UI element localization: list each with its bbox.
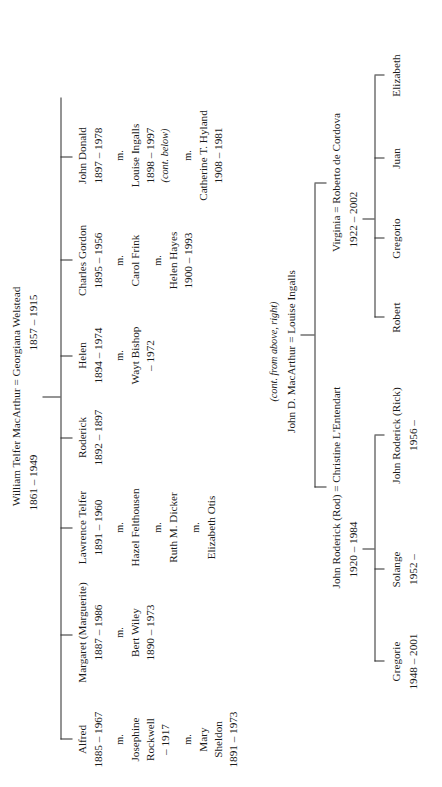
child-1-marriage-0-mark: m. [112, 589, 125, 675]
child-5-marriage-0-mark: m. [112, 214, 125, 306]
child-3-dates: 1892 – 1897 [90, 392, 104, 482]
lower-child-0-tick-2 [374, 434, 384, 435]
root-couple: William Telfer MacArthur = Georgiana Wel… [8, 246, 22, 546]
child-0-marriage-0-spouse-line1: Josephine [127, 699, 141, 779]
lower-child-1-tick-0 [374, 316, 384, 317]
root-drop-line [42, 396, 60, 397]
lower-child-0-drop [362, 548, 374, 549]
lower-tick-0 [314, 486, 326, 487]
child-5-marriage-1-mark: m. [150, 214, 163, 306]
lower-tick-1 [314, 182, 326, 183]
child-tick-3 [60, 437, 72, 438]
child-6-marriage-1-dates: 1908 – 1981 [210, 109, 224, 201]
lower-child-0-offspring-2-dates: 1956 – [405, 401, 419, 469]
lower-child-0-names: John Roderick (Rod) = Christine L'Entend… [328, 339, 342, 635]
lower-child-0-offspring-0-name: Gregorie [388, 619, 402, 703]
child-tick-4 [60, 355, 72, 356]
child-tick-2 [60, 527, 72, 528]
child-tick-1 [60, 634, 72, 635]
child-2-marriage-1-mark: m. [150, 481, 163, 573]
child-5-marriage-1-spouse: Helen Hayes [165, 214, 179, 306]
root-names: William Telfer MacArthur = Georgiana Wel… [8, 246, 22, 546]
lower-child-1-tick-1 [374, 237, 384, 238]
lower-child-1-names: Virginia = Roberto de Cordova [328, 69, 342, 295]
lower-child-0-tick-1 [374, 568, 384, 569]
child-0-name: Alfred [74, 699, 88, 779]
lower-child-1-tick-2 [374, 157, 384, 158]
lower-child-1-dates: 1922 – 2002 [345, 171, 359, 267]
child-0-dates: 1885 – 1967 [90, 694, 104, 784]
sibling-bar [60, 97, 61, 739]
child-5-marriage-1-dates: 1900 – 1993 [180, 214, 194, 306]
lower-child-1-offspring-2-name: Juan [388, 125, 402, 191]
child-5-marriage-0-spouse: Carol Frink [127, 214, 141, 306]
child-4-name: Helen [74, 317, 88, 393]
child-4-marriage-0-spouse: Wayt Bishop [127, 313, 141, 397]
child-6-marriage-0-dates: 1898 – 1997 [142, 109, 156, 201]
lower-child-0-offspring-0-dates: 1948 – 2001 [405, 613, 419, 709]
lower-child-0-offspring-2-name: John Roderick (Rick) [388, 363, 402, 507]
child-2-marriage-0-mark: m. [112, 481, 125, 573]
child-0-marriage-1-mark: m. [180, 699, 193, 779]
family-tree-canvas: William Telfer MacArthur = Georgiana Wel… [0, 0, 442, 787]
child-2-marriage-1-spouse: Ruth M. Dicker [165, 473, 179, 581]
child-6-marriage-0-spouse: Louise Ingalls [127, 109, 141, 201]
child-6-marriage-1-spouse: Catherine T. Hyland [195, 93, 209, 217]
root-dates-right: 1857 – 1915 [25, 267, 39, 377]
child-5-name: Charles Gordon [74, 207, 88, 313]
lower-child-1-offspring-3-name: Elizabeth [388, 31, 402, 119]
lower-child-0-tick-0 [374, 660, 384, 661]
child-1-marriage-0-dates: 1890 – 1973 [142, 584, 156, 680]
root-dates-left: 1861 – 1949 [25, 427, 39, 537]
child-0-marriage-1-spouse-line2: Sheldon [210, 699, 224, 779]
child-6-marriage-0-mark: m. [112, 109, 125, 201]
lower-note: (cont. from above, right) [266, 261, 279, 441]
child-0-marriage-0-mark: m. [112, 699, 125, 779]
lower-drop-line [300, 334, 314, 335]
child-6-marriage-1-mark: m. [180, 109, 193, 201]
lower-child-0-offspring-1-name: Solange [388, 529, 402, 609]
child-6-marriage-0-note: (cont. below) [157, 109, 170, 201]
lower-child-0-dates: 1920 – 1984 [345, 501, 359, 597]
child-5-dates: 1895 – 1956 [90, 214, 104, 306]
rotated-page-wrapper: William Telfer MacArthur = Georgiana Wel… [0, 0, 442, 787]
child-0-marriage-1-dates: 1891 – 1973 [225, 694, 239, 784]
lower-child-1-bar [374, 75, 375, 317]
child-1-dates: 1887 – 1986 [90, 584, 104, 680]
child-6-dates: 1897 – 1978 [90, 109, 104, 201]
child-1-name: Margaret (Marguerite) [74, 562, 88, 702]
child-tick-6 [60, 156, 72, 157]
lower-child-1-tick-3 [374, 74, 384, 75]
lower-child-1-drop [362, 218, 374, 219]
child-tick-0 [60, 738, 72, 739]
lower-child-1-offspring-0-name: Robert [388, 279, 402, 355]
child-1-marriage-0-spouse-line1: Bert Wiley [127, 589, 141, 675]
lower-sibling-bar [314, 183, 315, 487]
child-3-name: Roderick [74, 397, 88, 477]
child-2-marriage-2-mark: m. [188, 481, 201, 573]
lower-child-1-offspring-1-name: Gregorio [388, 197, 402, 279]
child-0-marriage-1-spouse-line1: Mary [195, 699, 209, 779]
child-6-name: John Donald [74, 108, 88, 202]
child-4-marriage-0-mark: m. [112, 317, 125, 393]
child-tick-5 [60, 259, 72, 260]
child-0-marriage-0-spouse-line2: Rockwell [142, 699, 156, 779]
child-2-dates: 1891 – 1960 [90, 481, 104, 573]
child-2-name: Lawrence Telfer [74, 473, 88, 581]
lower-child-0-offspring-1-dates: 1952 – [405, 531, 419, 607]
lower-couple: John D. MacArthur = Louise Ingalls [283, 245, 297, 457]
child-4-marriage-0-dates: – 1972 [142, 317, 156, 393]
child-0-marriage-0-dates: – 1917 [157, 699, 171, 779]
child-2-marriage-0-spouse: Hazel Felthousen [127, 473, 141, 581]
child-4-dates: 1894 – 1974 [90, 309, 104, 401]
child-2-marriage-2-spouse: Elizabeth Otis [203, 473, 217, 581]
lower-child-0-bar [374, 435, 375, 661]
